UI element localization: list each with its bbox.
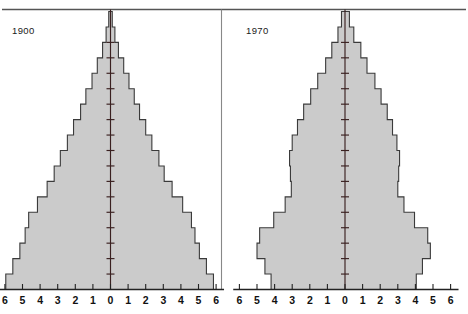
chart-canvas: 6543210123456190065432101234561970 [0, 0, 468, 314]
axis-tick-label: 5 [254, 294, 260, 306]
axis-tick-label: 2 [72, 294, 78, 306]
pyramid-panel-1970: 65432101234561970 [233, 10, 458, 307]
panel-label-1900: 1900 [12, 25, 35, 36]
axis-tick-label: 1 [90, 294, 96, 306]
axis-tick-label: 0 [108, 294, 114, 306]
axis-tick-label: 4 [178, 294, 184, 306]
axis-tick-label: 5 [196, 294, 202, 306]
axis-tick-label: 6 [236, 294, 242, 306]
axis-tick-label: 2 [307, 294, 313, 306]
axis-tick-label: 6 [213, 294, 219, 306]
axis-tick-label: 5 [430, 294, 436, 306]
panel-label-1970: 1970 [246, 25, 269, 36]
population-pyramid-figure: 6543210123456190065432101234561970 [0, 0, 468, 314]
axis-tick-label: 0 [342, 294, 348, 306]
axis-tick-label: 1 [324, 294, 330, 306]
axis-tick-label: 6 [2, 294, 8, 306]
axis-tick-label: 5 [20, 294, 26, 306]
axis-tick-label: 3 [55, 294, 61, 306]
axis-tick-label: 1 [125, 294, 131, 306]
axis-tick-label: 1 [360, 294, 366, 306]
axis-tick-label: 3 [289, 294, 295, 306]
pyramid-panel-1900: 65432101234561900 [0, 10, 224, 307]
axis-tick-label: 4 [272, 294, 278, 306]
axis-tick-label: 6 [448, 294, 454, 306]
axis-tick-label: 2 [143, 294, 149, 306]
axis-tick-label: 2 [377, 294, 383, 306]
axis-tick-label: 4 [412, 294, 418, 306]
axis-tick-label: 4 [37, 294, 43, 306]
axis-tick-label: 3 [160, 294, 166, 306]
axis-tick-label: 3 [395, 294, 401, 306]
